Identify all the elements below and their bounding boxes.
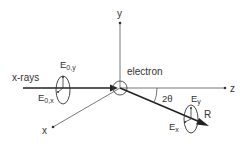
x-axis-label: x [42, 125, 47, 136]
incident-polarization-ellipse [56, 76, 70, 104]
z-axis [120, 87, 226, 90]
ex-label: Ex [169, 121, 179, 133]
e0y-label: E0,y [60, 59, 76, 72]
x-axis [52, 88, 120, 128]
scattering-diagram: y z x x-rays E0,y E0,x electron R 2θ [0, 0, 247, 144]
r-label: R [204, 109, 211, 120]
e0x-label: E0,x [38, 92, 54, 104]
x-rays-label: x-rays [12, 72, 39, 83]
y-axis [119, 22, 122, 88]
incident-beam [23, 85, 118, 92]
ey-label: Ey [191, 93, 201, 106]
z-axis-label: z [230, 83, 235, 94]
angle-arc [154, 88, 157, 103]
electron-label: electron [127, 66, 163, 77]
y-axis-label: y [117, 8, 122, 19]
scattered-polarization-ellipse [184, 105, 198, 133]
angle-label: 2θ [162, 93, 173, 104]
